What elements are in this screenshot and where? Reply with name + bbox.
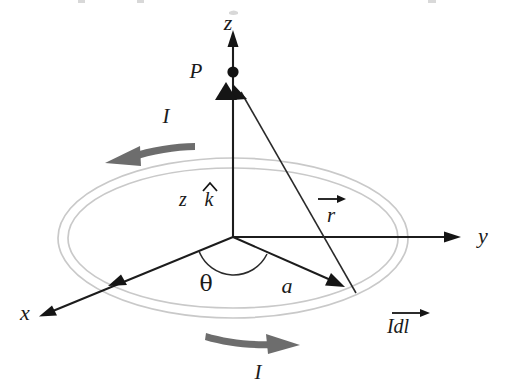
y-axis [233,232,461,243]
current-label-lower: I [254,360,263,384]
current-label-upper: I [162,104,171,128]
radius-vector-arrowhead [325,273,345,287]
x-axis-label: x [19,300,30,325]
z-axis [228,30,239,237]
y-axis-label: y [476,223,488,248]
z-coordinate-label: z [178,188,187,210]
field-point-label: P [189,59,203,83]
current-arrow-lower [205,333,300,354]
y-axis-arrowhead [444,232,461,243]
loop-radius-label: a [282,273,293,298]
z-axis-label: z [223,10,233,35]
scan-artifacts [78,0,436,15]
current-arrow-lower-head [266,334,300,354]
current-arrow-lower-shape [205,333,272,348]
r-vector [232,84,356,293]
current-arrow-upper [105,143,195,166]
polar-angle-label: θ [199,271,212,296]
diagram-canvas: z y x P I I z k θ a r Idl [0,0,518,387]
r-vector-label: r [327,203,336,227]
k-unit-vector-label: k [205,188,215,210]
r-vector-line [241,92,356,293]
current-arrow-upper-head [105,146,141,166]
r-vector-overbar [318,195,346,203]
physics-diagram: z y x P I I z k θ a r Idl [0,0,518,387]
x-axis-arrowhead-outer [39,306,57,317]
current-element-label: Idl [386,315,410,337]
x-axis-arrowhead-inner [108,275,127,287]
field-point-dot [227,66,238,77]
